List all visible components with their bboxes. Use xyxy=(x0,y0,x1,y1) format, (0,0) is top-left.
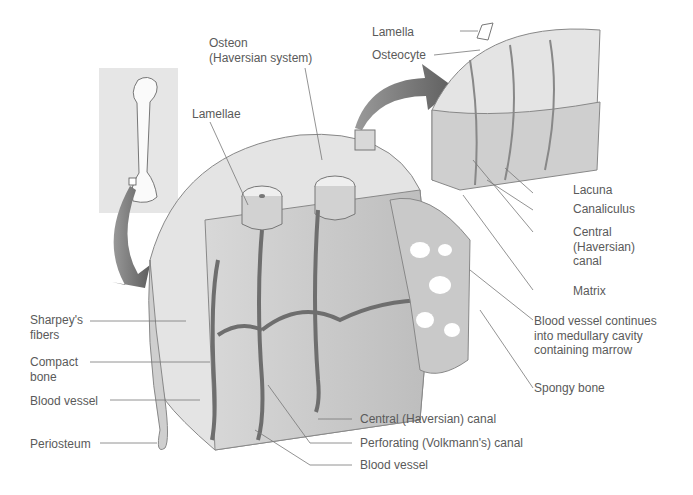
label-blood-vessel-continues-line3: containing marrow xyxy=(534,343,657,358)
label-compact-line1: Compact xyxy=(30,355,78,370)
label-compact-bone: Compact bone xyxy=(30,355,78,384)
label-spongy-bone: Spongy bone xyxy=(534,381,605,396)
label-sharpeys-line2: fibers xyxy=(30,328,83,343)
label-central-canal-bottom: Central (Haversian) canal xyxy=(360,412,496,427)
label-blood-vessel-continues-line1: Blood vessel continues xyxy=(534,314,657,329)
label-osteocyte: Osteocyte xyxy=(372,48,426,63)
label-central-canal-line1: Central xyxy=(573,225,635,240)
label-blood-vessel-bottom: Blood vessel xyxy=(360,458,428,473)
compact-bone-block xyxy=(149,134,430,450)
label-sharpeys-line1: Sharpey's xyxy=(30,313,83,328)
label-osteon: Osteon (Haversian system) xyxy=(209,36,312,65)
label-lamella: Lamella xyxy=(372,25,414,40)
label-lacuna: Lacuna xyxy=(573,183,612,198)
label-central-canal-line2: (Haversian) xyxy=(573,240,635,255)
label-lamellae: Lamellae xyxy=(192,107,241,122)
label-sharpeys-fibers: Sharpey's fibers xyxy=(30,313,83,342)
label-blood-vessel-left: Blood vessel xyxy=(30,394,98,409)
label-central-canal-line3: canal xyxy=(573,254,635,269)
label-perforating-canal: Perforating (Volkmann's) canal xyxy=(360,436,523,451)
label-matrix: Matrix xyxy=(573,284,606,299)
label-central-canal: Central (Haversian) canal xyxy=(573,225,635,269)
label-osteon-line1: Osteon xyxy=(209,36,312,51)
label-compact-line2: bone xyxy=(30,370,78,385)
label-osteon-line2: (Haversian system) xyxy=(209,51,312,66)
label-periosteum: Periosteum xyxy=(30,437,91,452)
label-blood-vessel-continues-line2: into medullary cavity xyxy=(534,329,657,344)
label-blood-vessel-continues: Blood vessel continues into medullary ca… xyxy=(534,314,657,358)
label-canaliculus: Canaliculus xyxy=(573,202,635,217)
femur-inset xyxy=(99,68,178,213)
